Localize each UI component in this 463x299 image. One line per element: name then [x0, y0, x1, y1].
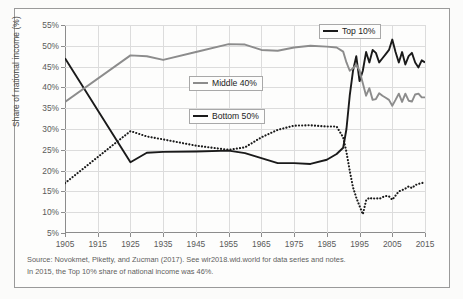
x-axis-tick-label: 1925	[121, 239, 140, 249]
series-lines	[65, 25, 425, 233]
series-line-top-10	[65, 40, 425, 164]
y-axis-title: Share of national income (%)	[11, 0, 21, 127]
x-axis-tick	[229, 233, 230, 237]
x-axis-tick-label: 1915	[88, 239, 107, 249]
y-axis-tick-label: 50%	[42, 41, 59, 51]
x-axis-tick	[163, 233, 164, 237]
legend-item-bottom50[interactable]: Bottom 50%	[189, 109, 265, 124]
legend-item-middle40[interactable]: Middle 40%	[189, 76, 263, 91]
legend-label-top10: Top 10%	[342, 26, 375, 36]
x-axis-tick	[294, 233, 295, 237]
x-axis-tick	[327, 233, 328, 237]
y-axis-tick-label: 55%	[42, 20, 59, 30]
y-axis-tick	[61, 233, 65, 234]
legend-label-middle40: Middle 40%	[212, 78, 257, 88]
y-axis-tick-label: 20%	[42, 166, 59, 176]
y-axis-tick-label: 5%	[47, 228, 59, 238]
series-line-bottom-50	[65, 125, 425, 214]
legend-swatch-middle40	[193, 82, 208, 84]
legend-swatch-bottom50	[193, 115, 208, 117]
y-axis-tick-label: 30%	[42, 124, 59, 134]
y-axis-tick-label: 15%	[42, 186, 59, 196]
x-axis-tick	[130, 233, 131, 237]
chart-figure: Share of national income (%) 19051915192…	[14, 8, 450, 288]
x-axis-tick	[65, 233, 66, 237]
x-axis-tick-label: 1965	[252, 239, 271, 249]
y-axis-tick-label: 45%	[42, 62, 59, 72]
y-axis-tick-label: 35%	[42, 103, 59, 113]
x-axis-tick	[360, 233, 361, 237]
legend-item-top10[interactable]: Top 10%	[319, 24, 381, 39]
gridline-vertical	[425, 25, 426, 233]
x-axis-tick-label: 1955	[219, 239, 238, 249]
legend-label-bottom50: Bottom 50%	[212, 111, 259, 121]
y-axis-tick-label: 25%	[42, 145, 59, 155]
legend-swatch-top10	[323, 30, 338, 32]
x-axis-tick-label: 1985	[317, 239, 336, 249]
x-axis-tick-label: 1975	[285, 239, 304, 249]
x-axis-tick	[261, 233, 262, 237]
source-line-2: In 2015, the Top 10% share of national i…	[27, 266, 346, 278]
x-axis-tick	[425, 233, 426, 237]
y-axis-tick-label: 10%	[42, 207, 59, 217]
plot-area: 1905191519251935194519551965197519851995…	[65, 25, 425, 233]
x-axis-tick-label: 1935	[154, 239, 173, 249]
x-axis-tick	[98, 233, 99, 237]
source-line-1: Source: Novokmet, Piketty, and Zucman (2…	[27, 254, 346, 266]
x-axis-tick	[196, 233, 197, 237]
x-axis-tick-label: 2015	[416, 239, 435, 249]
y-axis-tick-label: 40%	[42, 82, 59, 92]
x-axis-tick	[392, 233, 393, 237]
x-axis-tick-label: 1945	[187, 239, 206, 249]
x-axis-tick-label: 1905	[56, 239, 75, 249]
source-note: Source: Novokmet, Piketty, and Zucman (2…	[27, 254, 346, 277]
x-axis-tick-label: 2005	[383, 239, 402, 249]
x-axis-tick-label: 1995	[350, 239, 369, 249]
